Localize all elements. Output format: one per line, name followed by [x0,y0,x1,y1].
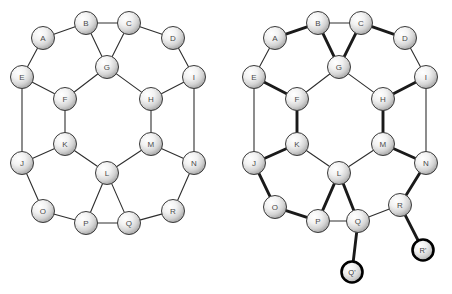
graph-node-o[interactable]: O [32,200,55,223]
graph-edge-h-i [160,82,185,95]
node-label-i: I [193,73,195,82]
node-label-l: L [337,169,342,178]
graph-node-k[interactable]: K [54,133,77,156]
node-label-p: P [83,219,89,228]
graph-edge-e-f [263,82,288,95]
matched-graph-with-pendants-nodes: ABCDEFGHIJKLMNOPQRQ'R' [243,12,438,283]
graph-edge-f-g [73,73,99,93]
graph-node-f[interactable]: F [54,88,77,111]
node-label-o: O [40,207,46,216]
graph-edge-j-k [31,148,56,159]
graph-edge-k-l [305,150,331,168]
graph-edge-c-g [343,32,356,58]
graph-node-h[interactable]: H [140,88,163,111]
graph-node-p[interactable]: P [307,210,330,233]
graph-node-g[interactable]: G [96,56,119,79]
graph-edge-n-r [405,172,420,197]
graph-node-m[interactable]: M [140,133,163,156]
graph-node-q2[interactable]: Q' [342,262,363,283]
graph-node-n[interactable]: N [415,152,438,175]
graph-node-l[interactable]: L [328,162,351,185]
graph-node-q[interactable]: Q [347,210,370,233]
graph-edge-g-h [347,73,375,93]
graph-edge-h-i [392,82,417,95]
node-label-l: L [105,169,110,178]
node-label-k: K [294,140,300,149]
graph-node-e[interactable]: E [243,66,266,89]
graph-edge-q-r [139,214,164,221]
graph-node-m[interactable]: M [372,133,395,156]
node-label-q: Q [126,219,132,228]
node-label-n: N [423,159,429,168]
graph-node-r[interactable]: R [162,200,185,223]
graph-edge-l-m [115,150,142,168]
node-label-a: A [40,34,46,43]
node-label-j: J [252,159,256,168]
graph-edge-l-p [322,182,335,212]
graph-node-g[interactable]: G [328,56,351,79]
graph-edge-a-e [259,47,271,68]
graph-node-i[interactable]: I [415,66,438,89]
graph-edge-c-d [138,26,163,35]
graph-node-j[interactable]: J [11,152,34,175]
graph-edge-b-g [322,32,334,58]
graph-node-j[interactable]: J [243,152,266,175]
node-label-r: R [170,207,176,216]
graph-edge-d-i [178,47,190,68]
graph-edge-c-g [111,32,124,58]
graph-node-b[interactable]: B [307,12,330,35]
node-label-e: E [19,73,25,82]
node-label-g: G [336,63,342,72]
graph-node-k[interactable]: K [286,133,309,156]
node-label-g: G [104,63,110,72]
node-label-f: F [62,95,67,104]
graph-edge-o-p [285,210,309,218]
base-graph-edges [22,23,194,223]
graph-node-d[interactable]: D [394,27,417,50]
graph-node-r2[interactable]: R' [413,240,434,261]
node-label-r2: R' [419,246,427,255]
graph-edge-a-e [27,47,39,68]
graph-edge-l-q [111,182,125,214]
graph-node-p[interactable]: P [75,212,98,235]
graph-edge-r-r2 [405,214,419,242]
graph-edge-n-r [177,172,190,202]
graph-node-q[interactable]: Q [118,212,141,235]
graph-node-r[interactable]: R [389,194,412,217]
graph-edge-o-p [53,214,77,221]
base-graph-nodes: ABCDEFGHIJKLMNOPQR [11,12,206,235]
graph-edge-q-q2 [353,231,357,263]
graph-edge-d-i [410,47,422,68]
graph-edge-e-f [31,82,56,95]
graph-edge-b-g [90,32,102,58]
node-label-m: M [148,140,155,149]
graph-node-c[interactable]: C [118,12,141,35]
graph-node-f[interactable]: F [286,88,309,111]
graph-edge-f-g [305,73,331,93]
graph-node-b[interactable]: B [75,12,98,35]
graph-node-e[interactable]: E [11,66,34,89]
graph-node-c[interactable]: C [350,12,373,35]
node-label-d: D [402,34,408,43]
node-label-d: D [170,34,176,43]
graph-node-o[interactable]: O [264,196,287,219]
graph-node-a[interactable]: A [264,27,287,50]
graph-edge-k-l [73,150,99,168]
graph-node-n[interactable]: N [183,152,206,175]
graph-node-a[interactable]: A [32,27,55,50]
node-label-a: A [272,34,278,43]
graph-edge-c-d [370,26,395,35]
graph-node-d[interactable]: D [162,27,185,50]
graph-edge-j-o [26,172,39,202]
graph-node-l[interactable]: L [96,162,119,185]
node-label-f: F [294,95,299,104]
graph-edge-j-o [258,172,270,198]
graph-edge-l-m [347,150,374,168]
graph-edge-a-b [284,26,308,34]
node-label-c: C [126,19,132,28]
graph-edge-l-q [343,182,355,211]
graph-node-h[interactable]: H [372,88,395,111]
graph-node-i[interactable]: I [183,66,206,89]
node-label-k: K [62,140,68,149]
graph-edge-m-n [392,148,417,159]
